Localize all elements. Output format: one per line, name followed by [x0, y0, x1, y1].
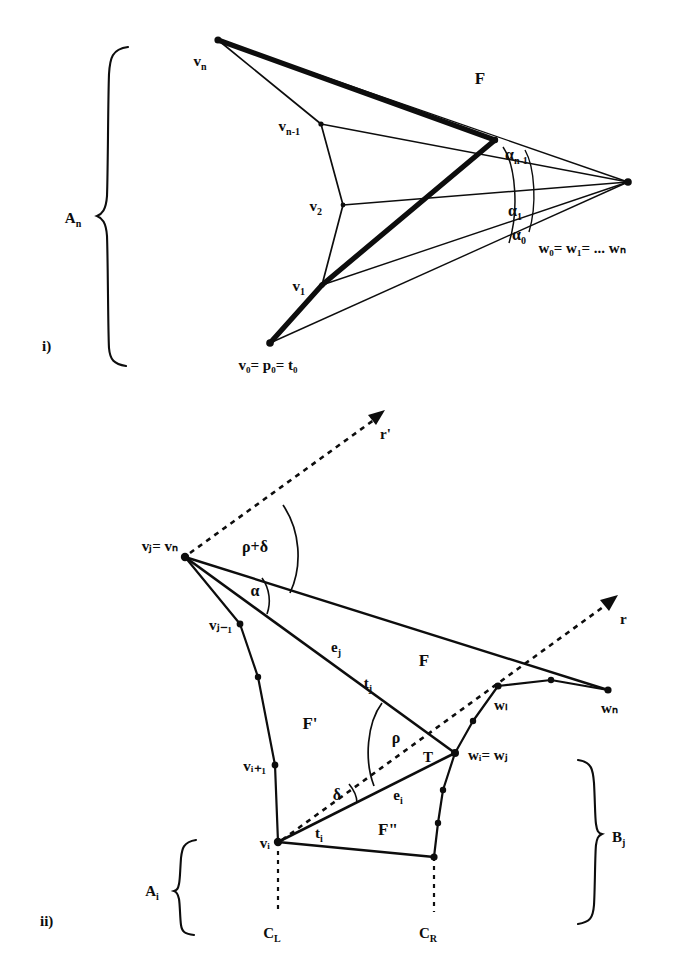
angle-label-delta: δ — [333, 786, 341, 803]
apex-label-w-series: w₀= w₁= ... wₙ — [538, 240, 625, 256]
face-label-f-prime: F' — [302, 714, 317, 733]
technical-diagram-svg: An i) vn vn-1 v2 v1 v₀= p₀= t₀ w₀= w₁= .… — [0, 0, 693, 978]
base-label-v0-p0-t0: v₀= p₀= t₀ — [239, 357, 298, 373]
point-label-t: T — [423, 749, 433, 765]
angle-label-rho-plus-delta: ρ+δ — [242, 538, 268, 556]
face-label-f: F — [419, 651, 429, 670]
vertex-dot-right-c — [435, 820, 441, 826]
face-label-f-top: F — [475, 69, 485, 88]
vertex-dot-vn — [214, 36, 221, 43]
vertex-dot-right-mid — [470, 718, 476, 724]
vertex-dot-right-b — [440, 787, 446, 793]
face-label-f-double-prime: F" — [378, 820, 398, 839]
vertex-label-vi-1: vᵢ₊₁ — [243, 758, 266, 774]
vertex-dot-v2 — [341, 203, 346, 208]
canvas-background — [0, 0, 693, 978]
vertex-label-wn: wₙ — [601, 700, 618, 716]
vertex-label-wi-wj: wᵢ= wⱼ — [468, 747, 508, 763]
vertex-label-vi: vᵢ — [260, 835, 271, 851]
vertex-dot-thickjoin — [492, 137, 498, 143]
vertex-label-vj-vn: vⱼ= vₙ — [142, 538, 178, 554]
angle-label-alpha: α — [251, 582, 260, 599]
vertex-dot-wl — [494, 682, 501, 689]
vertex-dot-v0 — [266, 339, 274, 347]
vertex-label-wl: wₗ — [494, 697, 508, 713]
angle-label-rho: ρ — [392, 729, 401, 747]
ray-label-r-prime: r' — [380, 426, 391, 442]
vertex-label-vj-1: vⱼ₋₁ — [209, 617, 232, 633]
vertex-dot-w-mid — [548, 677, 554, 683]
ray-label-r: r — [620, 611, 627, 627]
vertex-dot-w — [624, 178, 632, 186]
vertex-dot-wi-wj — [451, 749, 459, 757]
vertex-dot-bottom-right — [430, 853, 437, 860]
vertex-dot-v1 — [319, 282, 324, 287]
vertex-dot-vi — [274, 838, 282, 846]
panel-caption-i: i) — [42, 338, 51, 355]
vertex-dot-vi-1 — [272, 762, 279, 769]
vertex-dot-vj-1 — [237, 621, 244, 628]
vertex-dot-vj-vn — [181, 553, 189, 561]
vertex-dot-vn1 — [318, 121, 323, 126]
vertex-dot-wn — [604, 686, 611, 693]
vertex-dot-left-mid — [255, 674, 261, 680]
figure-container: An i) vn vn-1 v2 v1 v₀= p₀= t₀ w₀= w₁= .… — [0, 0, 693, 978]
panel-caption-ii: ii) — [40, 913, 53, 930]
